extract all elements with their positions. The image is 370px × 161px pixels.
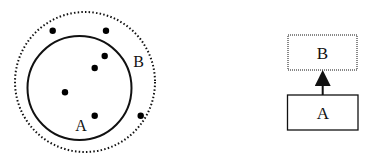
- inner-set-label: A: [75, 117, 87, 134]
- point-dot: [62, 89, 68, 95]
- point-dot: [102, 53, 108, 59]
- point-dot: [103, 28, 109, 34]
- hierarchy-view: B A: [288, 35, 359, 130]
- set-inclusion-diagram: B A B A: [0, 0, 370, 161]
- bottom-box-label: A: [317, 104, 330, 123]
- outer-set-label: B: [133, 53, 144, 70]
- top-box-label: B: [317, 44, 328, 63]
- point-dot: [92, 65, 98, 71]
- set-view: B A: [15, 12, 155, 152]
- point-dot: [50, 28, 56, 34]
- point-dot: [138, 113, 144, 119]
- point-dot: [92, 113, 98, 119]
